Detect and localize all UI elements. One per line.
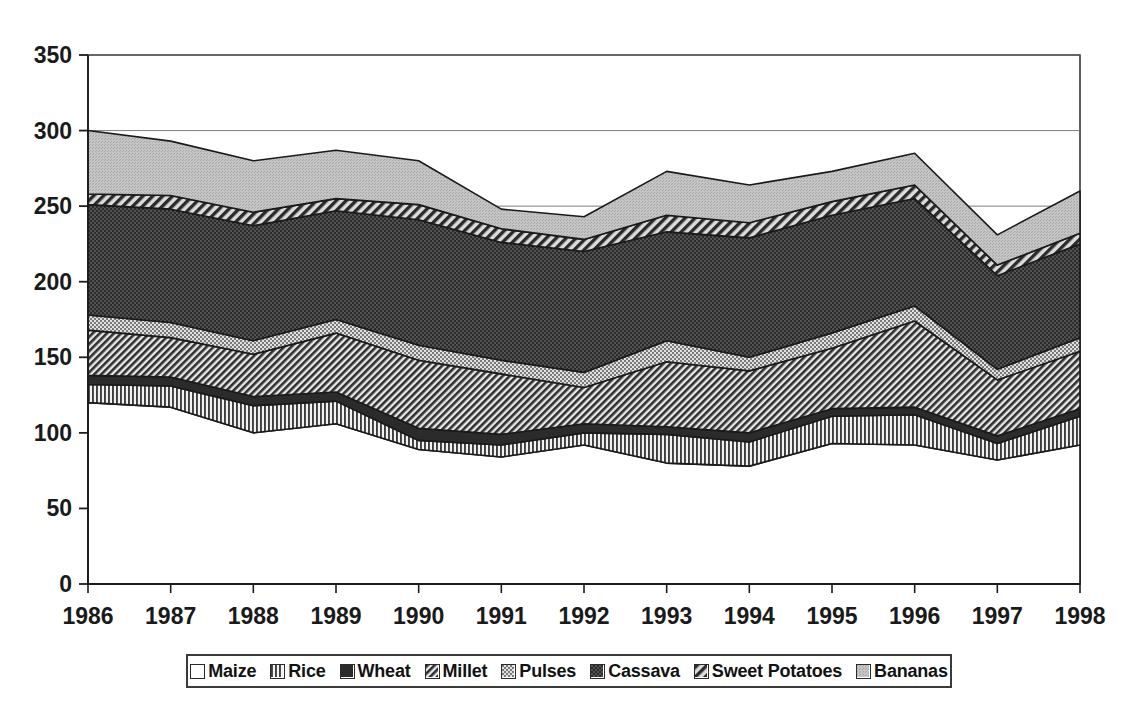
legend-item-cassava[interactable]: Cassava bbox=[590, 661, 680, 682]
y-axis-tick-label: 150 bbox=[34, 344, 72, 370]
legend-item-sweet-potatoes[interactable]: Sweet Potatoes bbox=[694, 661, 842, 682]
x-axis-tick-label: 1995 bbox=[806, 603, 857, 629]
x-axis-tick-label: 1993 bbox=[641, 603, 692, 629]
x-axis-tick-label: 1989 bbox=[310, 603, 361, 629]
y-axis-tick-label: 100 bbox=[34, 420, 72, 446]
legend-label: Pulses bbox=[519, 661, 576, 682]
legend-label: Bananas bbox=[874, 661, 948, 682]
x-axis-tick-label: 1987 bbox=[145, 603, 196, 629]
legend-item-bananas[interactable]: Bananas bbox=[856, 661, 948, 682]
legend-item-rice[interactable]: Rice bbox=[270, 661, 325, 682]
y-axis-tick-label: 300 bbox=[34, 118, 72, 144]
x-axis-ticks bbox=[88, 584, 1080, 593]
x-axis-tick-label: 1992 bbox=[558, 603, 609, 629]
stacked-area-chart: 350300250200150100500 198619871988198919… bbox=[0, 0, 1139, 718]
legend-swatch-wheat-icon bbox=[340, 664, 355, 679]
chart-page: 350300250200150100500 198619871988198919… bbox=[0, 0, 1139, 718]
legend-swatch-millet-icon bbox=[425, 664, 440, 679]
y-axis-labels: 350300250200150100500 bbox=[34, 42, 72, 597]
legend-label: Maize bbox=[208, 661, 256, 682]
y-axis-tick-label: 50 bbox=[46, 495, 72, 521]
y-axis-tick-label: 0 bbox=[59, 571, 72, 597]
legend-swatch-cassava-icon bbox=[590, 664, 605, 679]
legend-item-pulses[interactable]: Pulses bbox=[501, 661, 576, 682]
y-axis-ticks bbox=[79, 55, 88, 584]
legend-item-millet[interactable]: Millet bbox=[425, 661, 488, 682]
legend-label: Cassava bbox=[608, 661, 680, 682]
x-axis-tick-label: 1988 bbox=[228, 603, 279, 629]
legend-label: Sweet Potatoes bbox=[712, 661, 842, 682]
legend-label: Wheat bbox=[358, 661, 411, 682]
legend-swatch-bananas-icon bbox=[856, 664, 871, 679]
legend-swatch-rice-icon bbox=[270, 664, 285, 679]
chart-legend: MaizeRiceWheatMilletPulsesCassavaSweet P… bbox=[186, 654, 952, 688]
y-axis-tick-label: 250 bbox=[34, 193, 72, 219]
x-axis-tick-label: 1997 bbox=[972, 603, 1023, 629]
x-axis-tick-label: 1998 bbox=[1054, 603, 1105, 629]
legend-swatch-maize-icon bbox=[190, 664, 205, 679]
x-axis-tick-label: 1994 bbox=[724, 603, 775, 629]
y-axis-tick-label: 200 bbox=[34, 269, 72, 295]
legend-item-wheat[interactable]: Wheat bbox=[340, 661, 411, 682]
legend-item-maize[interactable]: Maize bbox=[190, 661, 256, 682]
x-axis-tick-label: 1996 bbox=[889, 603, 940, 629]
legend-swatch-pulses-icon bbox=[501, 664, 516, 679]
x-axis-tick-label: 1990 bbox=[393, 603, 444, 629]
x-axis-tick-label: 1986 bbox=[62, 603, 113, 629]
legend-label: Rice bbox=[288, 661, 325, 682]
x-axis-tick-label: 1991 bbox=[476, 603, 527, 629]
y-axis-tick-label: 350 bbox=[34, 42, 72, 68]
x-axis-labels: 1986198719881989199019911992199319941995… bbox=[62, 603, 1105, 629]
legend-swatch-sweet-potatoes-icon bbox=[694, 664, 709, 679]
legend-label: Millet bbox=[443, 661, 488, 682]
